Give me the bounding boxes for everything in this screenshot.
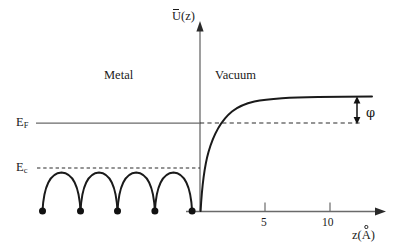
x-tick-label-5: 5 xyxy=(261,217,267,229)
angstrom-letter: A xyxy=(362,228,371,242)
ion-core-markers xyxy=(39,208,196,215)
x-tick-label-10: 10 xyxy=(322,217,334,229)
image-potential-curve xyxy=(201,97,372,211)
x-axis-title: z(A) xyxy=(352,229,375,242)
fermi-level-label-subscript: F xyxy=(24,120,29,130)
y-axis-title: U(z) xyxy=(172,10,195,23)
angstrom-symbol: A xyxy=(362,229,371,242)
x-axis-title-prefix: z( xyxy=(352,228,362,242)
lattice-potential-wells xyxy=(43,172,193,211)
plot-canvas xyxy=(0,0,403,251)
fermi-level-label-base: E xyxy=(16,115,24,129)
work-function-arrow xyxy=(354,96,361,124)
region-label-metal: Metal xyxy=(104,69,133,82)
conduction-bottom-label-base: E xyxy=(16,160,24,174)
region-label-vacuum: Vacuum xyxy=(215,69,256,82)
conduction-bottom-label-subscript: c xyxy=(24,165,28,175)
x-axis-title-suffix: ) xyxy=(371,228,375,242)
y-axis-title-symbol: U xyxy=(172,10,181,23)
x-axis xyxy=(186,208,386,216)
work-function-label: φ xyxy=(366,106,375,119)
x-axis-ticks xyxy=(265,203,330,212)
conduction-bottom-label: Ec xyxy=(16,161,27,174)
fermi-level-label: EF xyxy=(16,116,28,129)
energy-diagram-figure: U(z) Metal Vacuum EF Ec φ 5 10 z(A) xyxy=(0,0,403,251)
y-axis-title-arg: (z) xyxy=(181,9,195,23)
